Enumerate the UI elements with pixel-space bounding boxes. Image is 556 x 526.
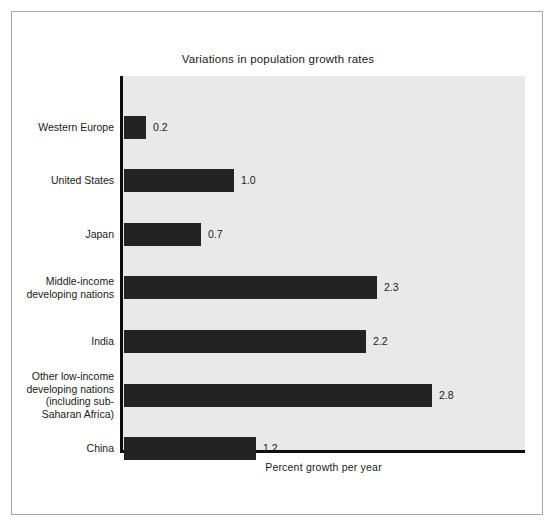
bar-category-label: China bbox=[18, 442, 114, 455]
bar-row: India2.2 bbox=[0, 330, 556, 354]
bar-category-label-line: Saharan Africa) bbox=[18, 408, 114, 421]
bar-category-label: Other low-incomedeveloping nations(inclu… bbox=[18, 370, 114, 420]
bar-row: Middle-incomedeveloping nations2.3 bbox=[0, 276, 556, 300]
bar-category-label-line: Other low-income bbox=[18, 370, 114, 383]
bar-value-label: 2.8 bbox=[439, 389, 454, 401]
bar-category-label-line: Western Europe bbox=[18, 121, 114, 134]
bar-value-label: 0.7 bbox=[208, 228, 223, 240]
bar-category-label: India bbox=[18, 335, 114, 348]
bar-category-label-line: developing nations bbox=[18, 288, 114, 301]
bar-category-label-line: (including sub- bbox=[18, 395, 114, 408]
bar-category-label: Middle-incomedeveloping nations bbox=[18, 275, 114, 300]
bar-category-label: Japan bbox=[18, 228, 114, 241]
bar bbox=[124, 276, 377, 299]
bar bbox=[124, 223, 201, 246]
bar bbox=[124, 169, 234, 192]
bar bbox=[124, 330, 366, 353]
bar bbox=[124, 384, 432, 407]
bar-category-label-line: Middle-income bbox=[18, 275, 114, 288]
figure-container: Variations in population growth rates We… bbox=[0, 0, 556, 526]
bar-row: China1.2 bbox=[0, 437, 556, 461]
bar-category-label-line: Japan bbox=[18, 228, 114, 241]
bar-value-label: 0.2 bbox=[153, 121, 168, 133]
bar-value-label: 1.0 bbox=[241, 174, 256, 186]
bar-row: Other low-incomedeveloping nations(inclu… bbox=[0, 384, 556, 408]
bar-category-label-line: developing nations bbox=[18, 383, 114, 396]
bar-category-label: United States bbox=[18, 174, 114, 187]
bar-value-label: 2.2 bbox=[373, 335, 388, 347]
bar bbox=[124, 116, 146, 139]
bar-row: Western Europe0.2 bbox=[0, 116, 556, 140]
bar-category-label-line: India bbox=[18, 335, 114, 348]
bar-value-label: 1.2 bbox=[263, 442, 278, 454]
bar-row: United States1.0 bbox=[0, 169, 556, 193]
bar-category-label: Western Europe bbox=[18, 121, 114, 134]
bar bbox=[124, 437, 256, 460]
bar-row: Japan0.7 bbox=[0, 223, 556, 247]
bar-category-label-line: China bbox=[18, 442, 114, 455]
bars-layer: Western Europe0.2United States1.0Japan0.… bbox=[0, 0, 556, 526]
x-axis-label: Percent growth per year bbox=[122, 461, 525, 473]
bar-value-label: 2.3 bbox=[384, 281, 399, 293]
bar-category-label-line: United States bbox=[18, 174, 114, 187]
